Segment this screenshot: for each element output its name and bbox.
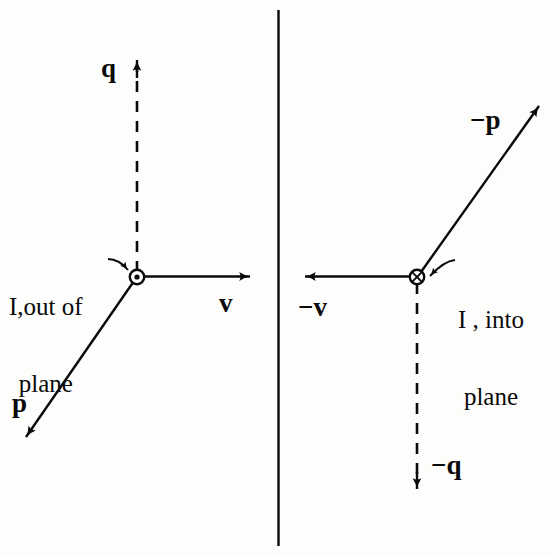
leader-line-left <box>108 259 128 270</box>
leader-line-right <box>430 260 455 276</box>
vector-label-minus-v: −v <box>298 294 327 321</box>
vector-label-minus-q: −q <box>431 452 461 479</box>
vector-label-q: q <box>101 55 116 82</box>
annotation-out-line2: plane <box>9 371 83 397</box>
vector-label-v: v <box>219 290 233 317</box>
annotation-into-line2: plane <box>458 384 524 410</box>
annotation-into-line1: I , into <box>458 307 524 333</box>
vector-label-minus-p: −p <box>470 107 500 134</box>
annotation-current-out-of-plane: I,out of plane <box>9 243 83 447</box>
current-out-of-plane-icon-dot <box>134 274 139 279</box>
physics-diagram-figure: q v p I,out of plane −p −v −q I , into p… <box>0 0 558 557</box>
annotation-out-line1: I,out of <box>9 294 83 320</box>
annotation-current-into-plane: I , into plane <box>458 256 524 460</box>
